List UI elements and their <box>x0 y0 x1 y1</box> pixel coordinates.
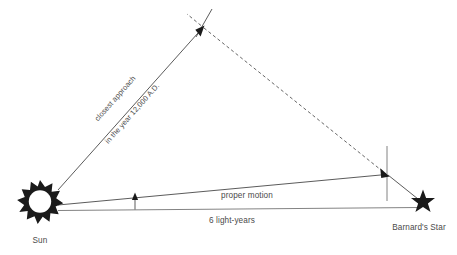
proper-motion-offset-arrowhead <box>132 193 138 201</box>
astronomy-diagram: Sun Barnard's Star proper motion 6 light… <box>0 0 457 255</box>
proper-motion-label: proper motion <box>221 191 273 200</box>
distance-baseline <box>58 208 418 211</box>
diagram-canvas: Sun Barnard's Star proper motion 6 light… <box>0 0 457 255</box>
star-connector-line <box>388 175 418 199</box>
sun-label: Sun <box>33 236 48 245</box>
distance-label: 6 light-years <box>209 216 255 225</box>
sight-line-dashed-extension <box>187 14 201 26</box>
sight-line-dashed <box>204 28 386 174</box>
sun-burst-icon <box>17 180 63 224</box>
barnards-star-label: Barnard's Star <box>392 223 446 232</box>
closest-approach-label-line2: in the year 12,000 A.D. <box>103 81 161 145</box>
closest-point-arrowhead <box>380 168 389 178</box>
five-point-star-icon <box>411 190 435 213</box>
proper-motion-line <box>58 175 386 206</box>
